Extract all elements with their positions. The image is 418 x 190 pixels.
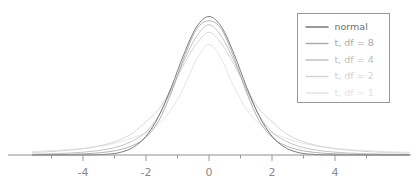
- legend: normalt, df = 8t, df = 4t, df = 2t, df =…: [298, 14, 390, 103]
- x-tick-label: -4: [78, 166, 89, 179]
- legend-label: t, df = 8: [335, 37, 374, 48]
- legend-label: t, df = 2: [335, 70, 374, 81]
- legend-label: t, df = 4: [335, 54, 374, 65]
- x-tick-labels: -4-2024: [78, 166, 339, 179]
- chart-figure: -4-2024 normalt, df = 8t, df = 4t, df = …: [0, 0, 418, 190]
- x-tick-label: 0: [206, 166, 213, 179]
- x-tick-label: 2: [269, 166, 276, 179]
- x-tick-label: 4: [332, 166, 339, 179]
- legend-label: t, df = 1: [335, 87, 374, 98]
- density-plot: -4-2024 normalt, df = 8t, df = 4t, df = …: [0, 0, 418, 190]
- x-tick-label: -2: [141, 166, 152, 179]
- legend-label: normal: [335, 21, 368, 32]
- x-axis: [8, 155, 411, 161]
